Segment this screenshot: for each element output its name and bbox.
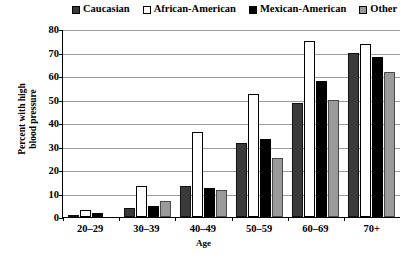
x-axis-tick-mark bbox=[288, 217, 289, 221]
bar-other bbox=[160, 201, 171, 217]
bar-caucasian bbox=[180, 186, 191, 217]
bar-caucasian bbox=[236, 143, 247, 217]
bar-african-american bbox=[304, 41, 315, 217]
y-axis-tick-label: 80 bbox=[49, 25, 60, 36]
y-axis-tick-label: 30 bbox=[49, 142, 60, 153]
y-axis-tick-label: 60 bbox=[49, 72, 60, 83]
swatch-caucasian-icon bbox=[72, 6, 80, 14]
y-axis-tick-label: 70 bbox=[49, 48, 60, 59]
y-axis-tick-label: 50 bbox=[49, 95, 60, 106]
bar-other bbox=[216, 190, 227, 217]
x-axis-tick-label: 60–69 bbox=[287, 222, 343, 238]
legend-label-african-american: African-American bbox=[154, 4, 236, 15]
x-axis-tick-labels: 20–2930–3940–4950–5960–6970+ bbox=[62, 222, 400, 238]
x-axis-tick-mark bbox=[175, 217, 176, 221]
bar-group bbox=[232, 30, 288, 217]
bar-other bbox=[272, 158, 283, 217]
bar-group bbox=[63, 30, 119, 217]
legend-item-mexican-american: Mexican-American bbox=[249, 4, 346, 15]
swatch-mexican-american-icon bbox=[249, 6, 257, 14]
x-axis-tick-mark bbox=[232, 217, 233, 221]
bar-other bbox=[384, 72, 395, 217]
x-axis-tick-mark bbox=[119, 217, 120, 221]
bar-mexican-american bbox=[148, 206, 159, 217]
bar-caucasian bbox=[348, 53, 359, 218]
legend-item-caucasian: Caucasian bbox=[72, 4, 130, 15]
x-axis-tick-label: 30–39 bbox=[118, 222, 174, 238]
swatch-african-american-icon bbox=[143, 6, 151, 14]
bar-group bbox=[175, 30, 231, 217]
bar-caucasian bbox=[124, 208, 135, 217]
bar-caucasian bbox=[292, 103, 303, 217]
x-axis-tick-label: 40–49 bbox=[175, 222, 231, 238]
chart-legend: Caucasian African-American Mexican-Ameri… bbox=[72, 3, 402, 16]
legend-label-other: Other bbox=[370, 4, 397, 15]
y-axis-title-line2: blood pressure bbox=[28, 89, 38, 149]
bar-african-american bbox=[248, 94, 259, 217]
bar-african-american bbox=[80, 210, 91, 217]
legend-label-caucasian: Caucasian bbox=[83, 4, 130, 15]
y-axis-tick-label: 20 bbox=[49, 166, 60, 177]
bar-mexican-american bbox=[372, 57, 383, 217]
bar-caucasian bbox=[68, 215, 79, 217]
y-axis-tick-label: 40 bbox=[49, 119, 60, 130]
bar-mexican-american bbox=[260, 139, 271, 217]
y-axis-tick-label: 10 bbox=[49, 189, 60, 200]
x-axis-title: Age bbox=[0, 238, 407, 248]
x-axis-tick-label: 70+ bbox=[344, 222, 400, 238]
swatch-other-icon bbox=[359, 6, 367, 14]
bar-other bbox=[328, 100, 339, 218]
bar-groups bbox=[63, 30, 400, 217]
bar-mexican-american bbox=[92, 213, 103, 217]
bar-group bbox=[119, 30, 175, 217]
bar-african-american bbox=[360, 44, 371, 217]
y-axis-title-line1: Percent with high bbox=[17, 83, 27, 155]
legend-item-other: Other bbox=[359, 4, 397, 15]
legend-label-mexican-american: Mexican-American bbox=[260, 4, 346, 15]
bar-mexican-american bbox=[316, 81, 327, 217]
bar-chart: Caucasian African-American Mexican-Ameri… bbox=[0, 0, 407, 261]
x-axis-tick-label: 20–29 bbox=[62, 222, 118, 238]
x-axis-tick-mark bbox=[344, 217, 345, 221]
bar-group bbox=[344, 30, 400, 217]
bar-african-american bbox=[136, 186, 147, 217]
bar-african-american bbox=[192, 132, 203, 217]
plot-area: 01020304050607080 bbox=[62, 30, 400, 218]
bar-group bbox=[288, 30, 344, 217]
y-axis-title: Percent with high blood pressure bbox=[17, 29, 39, 209]
x-axis-tick-label: 50–59 bbox=[231, 222, 287, 238]
legend-item-african-american: African-American bbox=[143, 4, 236, 15]
x-axis-tick-mark bbox=[63, 217, 64, 221]
bar-mexican-american bbox=[204, 188, 215, 217]
